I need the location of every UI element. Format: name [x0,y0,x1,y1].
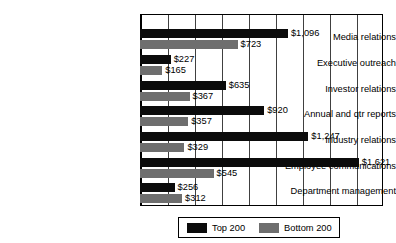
bar-value-label: $1,096 [291,29,319,38]
bar-bottom-200 [140,169,214,178]
bar-bottom-200 [140,117,188,126]
legend-label: Bottom 200 [284,223,332,233]
bar-value-label: $256 [178,183,199,192]
bar-value-label: $329 [187,143,208,152]
bar-top-200 [140,158,359,167]
bar-value-label: $367 [193,92,214,101]
bar-value-label: $635 [229,81,250,90]
bar-bottom-200 [140,40,238,49]
bar-top-200 [140,81,226,90]
bar-value-label: $1,247 [311,132,339,141]
bar-top-200 [140,132,308,141]
bar-top-200 [140,106,264,115]
bar-value-label: $357 [191,117,212,126]
bar-value-label: $227 [174,55,195,64]
legend-label: Top 200 [212,223,245,233]
chart-legend: Top 200 Bottom 200 [178,217,340,238]
legend-swatch-icon [259,223,279,233]
bar-value-label: $545 [217,169,238,178]
bar-value-label: $1,621 [362,158,390,167]
bar-value-label: $723 [241,40,262,49]
bar-bottom-200 [140,92,190,101]
bars-layer: $1,096$723$227$165$635$367$920$357$1,247… [140,14,383,206]
bar-chart: Media relations Executive outreach Inves… [0,0,396,243]
bar-top-200 [140,29,288,38]
bar-value-label: $165 [165,66,186,75]
legend-item-bottom-200: Bottom 200 [259,223,332,233]
bar-bottom-200 [140,66,162,75]
bar-bottom-200 [140,194,182,203]
legend-swatch-icon [187,223,207,233]
bar-value-label: $920 [267,106,288,115]
legend-item-top-200: Top 200 [187,223,245,233]
bar-top-200 [140,183,175,192]
bar-bottom-200 [140,143,184,152]
bar-top-200 [140,55,171,64]
bar-value-label: $312 [185,194,206,203]
